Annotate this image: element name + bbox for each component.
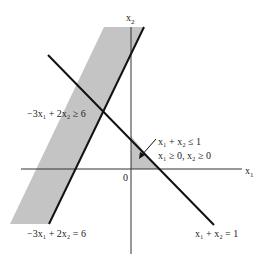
triangle-label-line1: x₁ + x₂ ≤ 1 (158, 136, 201, 147)
pointer-arrow (141, 139, 156, 156)
x1-axis-label: x1 (245, 165, 254, 179)
band-inequality-label: −3x₁ + 2x₂ ≥ 6 (27, 108, 86, 119)
x2-axis-label: x2 (126, 12, 135, 26)
band-boundary-label: −3x₁ + 2x₂ = 6 (27, 228, 86, 239)
line-boundary-label: x₁ + x₂ = 1 (195, 228, 238, 239)
infeasible-band-region (10, 27, 144, 224)
triangle-label-line2: x₁ ≥ 0, x₂ ≥ 0 (158, 150, 211, 161)
feasibility-diagram: x2 x1 0 −3x₁ + 2x₂ ≥ 6 −3x₁ + 2x₂ = 6 x₁… (0, 0, 268, 263)
origin-label: 0 (123, 172, 128, 183)
